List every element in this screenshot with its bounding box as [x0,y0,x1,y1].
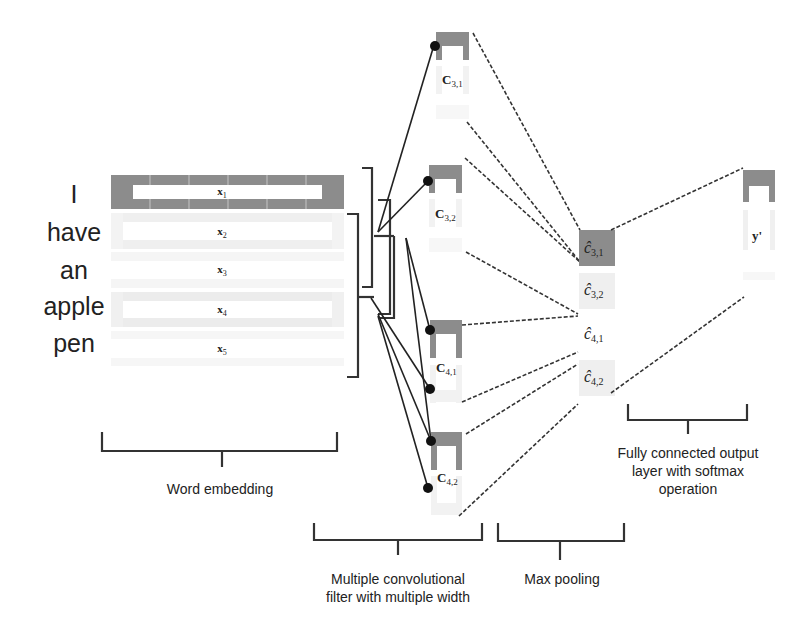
feature-map-c41: C4,1 [425,320,462,403]
caption-output-line3: operation [659,481,717,497]
svg-text:C4,2: C4,2 [437,470,458,487]
svg-text:x4: x4 [217,303,227,318]
svg-text:x2: x2 [217,225,227,240]
svg-text:y': y' [752,228,762,243]
node-dot [426,436,436,446]
node-dot [425,384,435,394]
feature-map-c32: C3,2 [423,165,462,252]
embedding-row-5: x5 [111,331,344,366]
node-dot [425,325,435,335]
bracket-width3-a [362,168,372,287]
caption-output-line1: Fully connected output [618,445,759,461]
output-node: y' [743,170,775,280]
caption-conv-line1: Multiple convolutional [331,571,465,587]
svg-text:C3,2: C3,2 [435,206,456,223]
node-dot [430,41,440,51]
word-have: have [47,218,101,246]
feature-map-c42: C4,2 [423,432,462,515]
embedding-row-3: x3 [111,252,344,288]
bracket-width4-b [380,236,394,318]
bracket-width4-a [347,214,358,377]
word-i: I [71,180,78,208]
brace-embedding [102,432,337,467]
embedding-row-2: x2 [111,213,344,249]
caption-conv-line2: filter with multiple width [326,589,470,605]
caption-word-embedding: Word embedding [167,481,273,497]
max-pool-vector: ĉ3,1 ĉ3,2 ĉ4,1 ĉ4,2 [579,230,615,396]
word-apple: apple [43,292,104,320]
svg-text:x5: x5 [217,342,227,357]
feature-map-c31: C3,1 [430,32,469,119]
embedding-matrix: x1 x2 x3 x4 x5 [111,175,344,366]
brace-conv [314,523,482,555]
caption-max-pooling: Max pooling [524,571,600,587]
node-dot [423,483,433,493]
bracket-width3-b [378,200,390,314]
word-an: an [60,256,88,284]
node-dot [423,176,433,186]
embedding-row-1: x1 [111,175,344,209]
brace-output [628,404,747,434]
fc-connectors [611,168,744,393]
sentence-words: I have an apple pen [43,180,104,357]
filter-lines [371,45,434,488]
pool-connectors [459,33,580,516]
brace-pool [498,523,624,560]
svg-text:C4,1: C4,1 [436,360,457,377]
cnn-diagram: I have an apple pen x1 [0,0,809,635]
caption-output-line2: layer with softmax [632,463,744,479]
embedding-row-4: x4 [111,292,344,327]
captions: Word embedding Multiple convolutional fi… [167,445,759,605]
svg-text:C3,1: C3,1 [442,72,463,89]
svg-text:x3: x3 [217,263,227,278]
svg-text:x1: x1 [217,185,227,200]
word-pen: pen [53,329,95,357]
svg-text:ĉ4,1: ĉ4,1 [584,325,604,344]
